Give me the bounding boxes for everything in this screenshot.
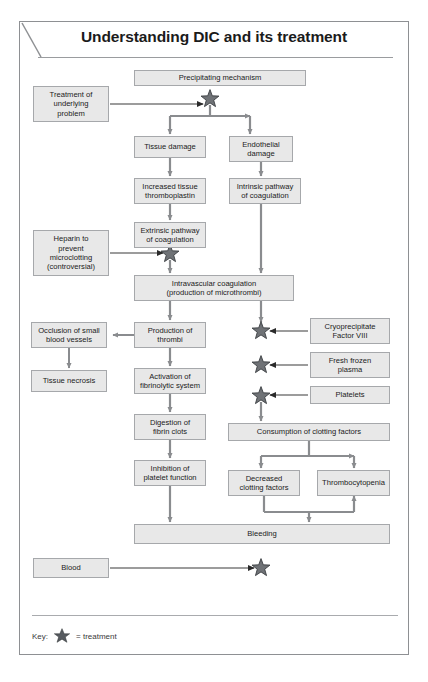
star-icon	[53, 627, 71, 645]
key-star-meaning: = treatment	[76, 632, 117, 641]
star-icon	[201, 90, 219, 107]
node-blood: Blood	[33, 558, 109, 578]
star-icon	[252, 387, 270, 404]
node-label: Platelets	[335, 390, 364, 399]
node-tissue-damage: Tissue damage	[134, 136, 206, 158]
key-label: Key:	[32, 632, 48, 641]
node-precipitating: Precipitating mechanism	[134, 70, 306, 86]
node-label: Intrinsic pathway of coagulation	[237, 182, 294, 201]
node-cryoprecipitate: Cryoprecipitate Factor VIII	[310, 318, 390, 344]
node-activation-fibrinolytic: Activation of fibrinolytic system	[134, 368, 206, 394]
node-label: Production of thrombi	[148, 326, 193, 345]
node-label: Heparin to prevent microclotting (contro…	[47, 234, 95, 272]
node-label: Bleeding	[247, 529, 277, 538]
node-label: Cryoprecipitate Factor VIII	[324, 322, 375, 341]
node-label: Decreased clotting factors	[240, 474, 289, 493]
node-label: Increased tissue thromboplastin	[142, 182, 197, 201]
node-fresh-frozen-plasma: Fresh frozen plasma	[310, 352, 390, 378]
node-label: Extrinsic pathway of coagulation	[140, 226, 199, 245]
node-label: Inhibition of platelet function	[143, 464, 196, 483]
node-increased-thromboplastin: Increased tissue thromboplastin	[134, 178, 206, 204]
node-consumption-clotting: Consumption of clotting factors	[228, 423, 390, 441]
node-digestion-fibrin: Digestion of fibrin clots	[134, 414, 206, 440]
node-bleeding: Bleeding	[134, 524, 390, 544]
key-divider	[32, 615, 398, 616]
node-inhibition-platelet: Inhibition of platelet function	[134, 460, 206, 486]
node-production-thrombi: Production of thrombi	[134, 322, 206, 348]
node-extrinsic-pathway: Extrinsic pathway of coagulation	[134, 222, 206, 248]
node-label: Blood	[61, 563, 80, 572]
node-intrinsic-pathway: Intrinsic pathway of coagulation	[229, 178, 301, 204]
node-decreased-clotting: Decreased clotting factors	[228, 470, 300, 496]
node-label: Treatment of underlying problem	[50, 90, 93, 118]
diagram-page: Understanding DIC and its treatment	[0, 0, 428, 682]
node-intravascular-coagulation: Intravascular coagulation (production of…	[134, 275, 294, 301]
node-label: Intravascular coagulation (production of…	[167, 279, 262, 298]
node-heparin: Heparin to prevent microclotting (contro…	[33, 230, 109, 276]
star-icon	[252, 356, 270, 373]
node-label: Thrombocytopenia	[322, 478, 385, 487]
node-label: Occlusion of small blood vessels	[38, 326, 100, 345]
key-legend: Key: = treatment	[32, 627, 117, 645]
node-label: Tissue necrosis	[43, 376, 95, 385]
node-platelets: Platelets	[310, 386, 390, 404]
node-label: Consumption of clotting factors	[257, 427, 361, 436]
node-label: Fresh frozen plasma	[329, 356, 372, 375]
node-label: Activation of fibrinolytic system	[140, 372, 200, 391]
star-icon	[252, 322, 270, 339]
node-label: Digestion of fibrin clots	[150, 418, 190, 437]
node-tissue-necrosis: Tissue necrosis	[31, 370, 107, 392]
node-label: Tissue damage	[144, 142, 196, 151]
node-treatment-underlying: Treatment of underlying problem	[33, 86, 109, 122]
node-label: Precipitating mechanism	[179, 73, 262, 82]
node-endothelial-damage: Endothelial damage	[229, 136, 293, 162]
node-thrombocytopenia: Thrombocytopenia	[317, 470, 390, 496]
node-label: Endothelial damage	[242, 140, 280, 159]
node-occlusion-vessels: Occlusion of small blood vessels	[31, 322, 107, 348]
star-icon	[252, 559, 270, 576]
